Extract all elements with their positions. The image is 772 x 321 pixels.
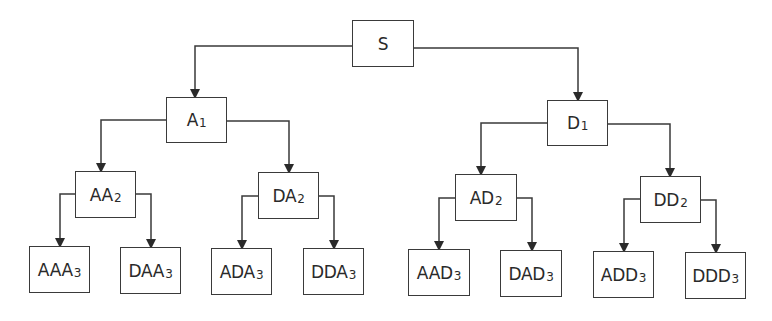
node-add3: ADD3 bbox=[593, 251, 654, 298]
node-d1: D1 bbox=[547, 100, 608, 146]
node-subscript: 3 bbox=[546, 270, 553, 284]
edge-arrow-ad2-dad3 bbox=[517, 198, 532, 250]
node-label: DAD bbox=[509, 264, 546, 284]
node-label: ADD bbox=[601, 265, 638, 285]
node-subscript: 3 bbox=[732, 272, 739, 286]
edge-arrow-ad2-aad3 bbox=[439, 198, 455, 249]
node-subscript: 2 bbox=[114, 191, 121, 205]
node-dad3: DAD3 bbox=[500, 250, 562, 297]
node-label: DDD bbox=[692, 266, 730, 286]
node-daa3: DAA3 bbox=[120, 247, 181, 294]
node-label: DA bbox=[272, 186, 296, 206]
node-aaa3: AAA3 bbox=[29, 246, 90, 293]
node-label: D bbox=[567, 113, 580, 133]
node-s: S bbox=[352, 20, 414, 67]
node-dda3: DDA3 bbox=[303, 248, 364, 295]
node-label: AA bbox=[90, 185, 113, 205]
node-label: AD bbox=[470, 188, 494, 208]
edge-arrow-aa2-daa3 bbox=[136, 194, 151, 247]
node-label: DD bbox=[654, 190, 680, 210]
edge-arrow-da2-dda3 bbox=[319, 196, 334, 248]
node-subscript: 3 bbox=[165, 267, 172, 281]
node-ada3: ADA3 bbox=[211, 248, 272, 295]
edge-arrow-dd2-ddd3 bbox=[701, 200, 716, 252]
node-subscript: 3 bbox=[639, 271, 646, 285]
node-label: ADA bbox=[220, 262, 255, 282]
node-a1: A1 bbox=[166, 97, 227, 143]
tree-diagram: SA1D1AA2DA2AD2DD2AAA3DAA3ADA3DDA3AAD3DAD… bbox=[0, 0, 772, 321]
edge-arrow-d1-dd2 bbox=[608, 124, 670, 176]
node-label: S bbox=[378, 34, 389, 54]
node-label: AAA bbox=[38, 260, 73, 280]
edge-arrow-dd2-add3 bbox=[624, 199, 640, 251]
edge-arrow-s-a1 bbox=[195, 46, 352, 97]
node-subscript: 1 bbox=[581, 119, 588, 133]
edge-arrow-a1-da2 bbox=[227, 121, 289, 172]
node-label: AAD bbox=[417, 263, 453, 283]
node-label: DDA bbox=[311, 262, 348, 282]
node-subscript: 2 bbox=[297, 192, 304, 206]
edge-arrow-a1-aa2 bbox=[101, 120, 166, 171]
edge-arrow-d1-ad2 bbox=[481, 123, 547, 174]
node-da2: DA2 bbox=[258, 172, 319, 219]
node-dd2: DD2 bbox=[640, 176, 701, 223]
node-subscript: 3 bbox=[74, 266, 81, 280]
node-label: A bbox=[187, 110, 198, 130]
node-subscript: 2 bbox=[495, 194, 502, 208]
node-subscript: 3 bbox=[454, 269, 461, 283]
node-ddd3: DDD3 bbox=[685, 252, 746, 299]
node-subscript: 1 bbox=[199, 116, 206, 130]
node-subscript: 3 bbox=[256, 268, 263, 282]
edge-arrow-aa2-aaa3 bbox=[60, 194, 75, 246]
node-label: DAA bbox=[129, 261, 165, 281]
edge-arrow-da2-ada3 bbox=[242, 196, 258, 248]
node-subscript: 3 bbox=[349, 268, 356, 282]
node-aad3: AAD3 bbox=[408, 249, 470, 296]
node-aa2: AA2 bbox=[75, 171, 136, 218]
node-ad2: AD2 bbox=[455, 174, 517, 221]
edge-arrow-s-d1 bbox=[414, 48, 578, 100]
node-subscript: 2 bbox=[680, 196, 687, 210]
